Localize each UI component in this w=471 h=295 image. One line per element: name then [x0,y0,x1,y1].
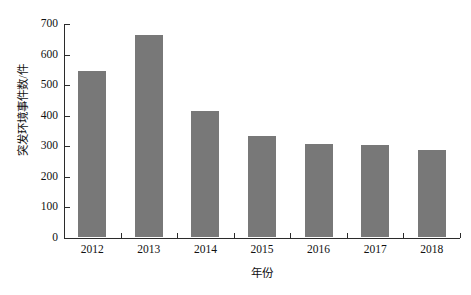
y-axis-tick-mark [65,116,70,117]
y-axis-tick-mark [65,85,70,86]
y-axis-tick-mark [65,24,70,25]
y-axis-tick-labels: 0100200300400500600700 [24,0,58,295]
x-axis-tick-mark [290,233,291,238]
y-axis-tick-label: 600 [24,49,58,61]
x-axis-tick-mark [177,233,178,238]
x-axis-tick-label: 2016 [289,243,349,256]
bar [248,136,276,237]
bar [78,71,106,237]
x-axis-line [64,238,460,239]
x-axis-tick-label: 2015 [232,243,292,256]
x-axis-title: 年份 [64,266,460,280]
x-axis-tick-label: 2014 [175,243,235,256]
plot-area [64,24,460,238]
y-axis-tick-label: 300 [24,140,58,152]
x-axis-tick-mark [234,233,235,238]
y-axis-tick-label: 200 [24,171,58,183]
y-axis-tick-label: 500 [24,79,58,91]
x-axis-tick-label: 2012 [62,243,122,256]
y-axis-tick-mark [65,238,70,239]
y-axis-tick-mark [65,207,70,208]
x-axis-tick-labels: 2012201320142015201620172018 [64,243,460,259]
y-axis-tick-mark [65,55,70,56]
x-axis-tick-label: 2013 [119,243,179,256]
x-axis-tick-mark [121,233,122,238]
bar-chart: 突发环境事件数/件 0100200300400500600700 2012201… [0,0,471,295]
bar [135,35,163,237]
y-axis-tick-mark [65,146,70,147]
y-axis-tick-label: 400 [24,110,58,122]
y-axis-tick-label: 100 [24,201,58,213]
x-axis-tick-label: 2018 [402,243,462,256]
x-axis-tick-mark [403,233,404,238]
x-axis-tick-label: 2017 [345,243,405,256]
bar [191,111,219,237]
y-axis-tick-label: 700 [24,18,58,30]
bar [418,150,446,237]
bar [305,144,333,237]
bar [361,145,389,237]
x-axis-tick-mark [460,233,461,238]
y-axis-tick-label: 0 [24,232,58,244]
x-axis-tick-mark [347,233,348,238]
y-axis-tick-mark [65,177,70,178]
